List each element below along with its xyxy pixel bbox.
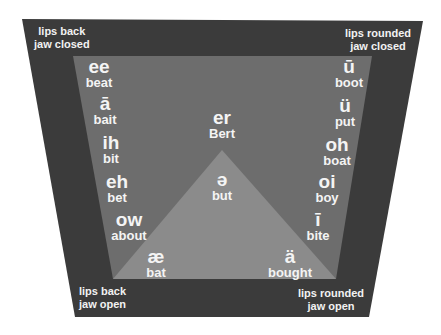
vowel-sound: oi bbox=[315, 172, 338, 191]
vowel-example-word: bat bbox=[146, 266, 166, 280]
vowel-example-word: beat bbox=[86, 76, 113, 90]
vowel-oh: oh boat bbox=[323, 135, 350, 168]
vowel-example-word: bought bbox=[268, 266, 312, 280]
vowel-sound: ə bbox=[212, 170, 232, 189]
vowel-er: er Bert bbox=[209, 108, 235, 141]
vowel-ow: ow about bbox=[111, 210, 146, 243]
vowel-sound: ä bbox=[268, 247, 312, 266]
vowel-a-umlaut: ä bought bbox=[268, 247, 312, 280]
vowel-sound: ee bbox=[86, 57, 113, 76]
vowel-example-word: bit bbox=[103, 152, 120, 166]
vowel-sound: ā bbox=[93, 94, 116, 113]
vowel-sound: oh bbox=[323, 135, 350, 154]
vowel-example-word: about bbox=[111, 229, 146, 243]
vowel-sound: ī bbox=[306, 210, 329, 229]
vowel-sound: eh bbox=[106, 172, 128, 191]
vowel-sound: er bbox=[209, 108, 235, 127]
vowel-example-word: put bbox=[335, 115, 355, 129]
vowel-ae: æ bat bbox=[146, 247, 166, 280]
vowel-sound: ü bbox=[335, 96, 355, 115]
vowel-u-umlaut: ü put bbox=[335, 96, 355, 129]
corner-label-bottom-left: lips back jaw open bbox=[79, 285, 126, 311]
vowel-schwa: ə but bbox=[212, 170, 232, 203]
vowel-a-long: ā bait bbox=[93, 94, 116, 127]
vowel-example-word: bite bbox=[306, 229, 329, 243]
vowel-sound: ū bbox=[335, 57, 363, 76]
vowel-example-word: boy bbox=[315, 191, 338, 205]
corner-label-top-right: lips rounded jaw closed bbox=[345, 27, 411, 53]
vowel-u-long: ū boot bbox=[335, 57, 363, 90]
vowel-example-word: boat bbox=[323, 154, 350, 168]
vowel-example-word: boot bbox=[335, 76, 363, 90]
vowel-example-word: bait bbox=[93, 113, 116, 127]
vowel-example-word: but bbox=[212, 189, 232, 203]
vowel-sound: ow bbox=[111, 210, 146, 229]
vowel-ih: ih bit bbox=[103, 133, 120, 166]
vowel-ee: ee beat bbox=[86, 57, 113, 90]
vowel-example-word: Bert bbox=[209, 127, 235, 141]
vowel-sound: æ bbox=[146, 247, 166, 266]
vowel-eh: eh bet bbox=[106, 172, 128, 205]
vowel-oi: oi boy bbox=[315, 172, 338, 205]
vowel-example-word: bet bbox=[106, 191, 128, 205]
corner-label-bottom-right: lips rounded jaw open bbox=[298, 287, 364, 313]
corner-label-top-left: lips back jaw closed bbox=[34, 25, 90, 51]
vowel-i-long: ī bite bbox=[306, 210, 329, 243]
vowel-sound: ih bbox=[103, 133, 120, 152]
